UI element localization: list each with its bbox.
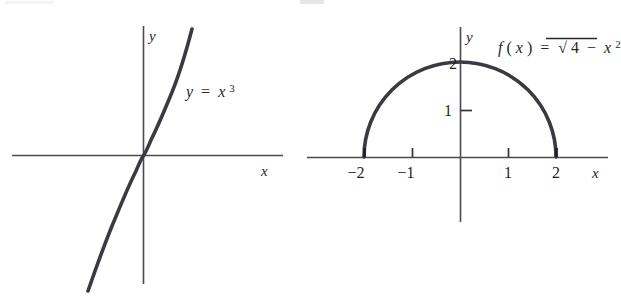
cubic-x-axis-label: x [260,163,268,179]
svg-text:f ( x: f ( x ) = √ 4 − x 2 [498,38,621,57]
semicircle-ytick-label-2: 2 [449,55,457,72]
semi-eq-equals: = [540,39,549,56]
semicircle-xtick-label-neg1: −1 [397,164,414,181]
figure-cubic: x y y = x 3 [0,0,310,298]
semicircle-xtick-label-neg2: −2 [347,164,364,181]
cubic-y-axis-label: y [147,28,156,44]
semicircle-y-axis-label: y [464,29,473,45]
semi-eq-arg: ( [506,39,511,57]
semi-eq-fn: f [498,39,505,57]
semi-eq-radicand-b: x [603,39,611,56]
cubic-eq-base: x [217,83,225,100]
cubic-curve [88,29,192,291]
cubic-eq-exponent: 3 [229,82,235,94]
figure-semicircle: −2 −1 1 2 1 2 x y f ( x ) = √ 4 − x 2 [300,0,621,298]
cubic-eq-lhs: y [184,83,194,101]
semi-eq-radicand-a: 4 [571,39,579,56]
semicircle-x-axis-label: x [591,165,599,181]
cubic-eq-equals: = [201,83,210,100]
figure-page: x y y = x 3 −2 −1 1 [0,0,621,298]
cubic-equation-label: y = x 3 [184,82,235,101]
semicircle-xtick-label-pos2: 2 [552,164,560,181]
semicircle-equation-label: f ( x ) = √ 4 − x 2 [498,38,621,57]
semicircle-ytick-label-1: 1 [444,102,452,119]
semi-eq-radical: √ [558,39,567,56]
semi-eq-exponent: 2 [615,38,621,50]
semicircle-xtick-label-pos1: 1 [504,164,512,181]
semi-eq-minus: − [587,39,596,56]
svg-text:y = x: y = x 3 [184,82,235,101]
